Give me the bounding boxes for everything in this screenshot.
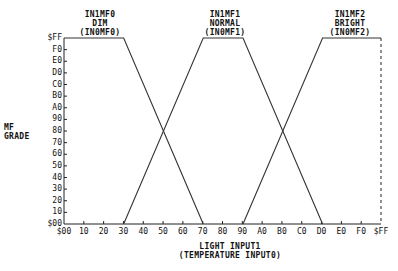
mf0-desc: DIM	[60, 19, 140, 28]
x-tick-label: 80	[215, 228, 231, 236]
mf-curve-1	[124, 38, 323, 224]
y-tick-label: 50	[52, 162, 62, 170]
y-tick-label: 10	[52, 208, 62, 216]
mf2-alt: (IN0MF2)	[310, 28, 390, 37]
y-axis-label-line2: GRADE	[4, 132, 30, 141]
y-tick-label: 40	[52, 174, 62, 182]
mf-curve-0	[64, 38, 203, 224]
x-tick-label: D0	[314, 228, 330, 236]
x-tick-label: 60	[175, 228, 191, 236]
x-tick-label: 40	[135, 228, 151, 236]
y-tick-label: E0	[52, 57, 62, 65]
x-tick-label: 20	[96, 228, 112, 236]
y-tick-label: B0	[52, 92, 62, 100]
y-tick-label: 70	[52, 139, 62, 147]
y-tick-label: F0	[52, 46, 62, 54]
y-tick-label: D0	[52, 69, 62, 77]
y-axis-label: MF GRADE	[4, 123, 30, 141]
x-axis-label-main: LIGHT INPUT1	[140, 242, 320, 251]
x-tick-label: 50	[155, 228, 171, 236]
x-tick-label: A0	[254, 228, 270, 236]
mf2-desc: BRIGHT	[310, 19, 390, 28]
mf-curve-2	[243, 38, 381, 224]
x-tick-label: 70	[195, 228, 211, 236]
mf2-name: IN1MF2	[310, 10, 390, 19]
y-tick-label: A0	[52, 104, 62, 112]
mf1-desc: NORMAL	[185, 19, 265, 28]
x-tick-label: E0	[333, 228, 349, 236]
mf1-name: IN1MF1	[185, 10, 265, 19]
mf0-alt: (IN0MF0)	[60, 28, 140, 37]
y-tick-label: 80	[52, 127, 62, 135]
y-tick-label: C0	[52, 81, 62, 89]
mf0-label: IN1MF0 DIM (IN0MF0)	[60, 10, 140, 37]
mf1-alt: (IN0MF1)	[185, 28, 265, 37]
y-axis-label-line1: MF	[4, 123, 30, 132]
x-tick-label: 30	[115, 228, 131, 236]
y-tick-label: 30	[52, 185, 62, 193]
y-tick-label: 60	[52, 150, 62, 158]
x-tick-label: C0	[294, 228, 310, 236]
y-tick-label: $FF	[48, 34, 62, 42]
x-tick-label: 10	[76, 228, 92, 236]
y-tick-label: 20	[52, 197, 62, 205]
y-tick-label: 90	[52, 115, 62, 123]
mf1-label: IN1MF1 NORMAL (IN0MF1)	[185, 10, 265, 37]
mf0-name: IN1MF0	[60, 10, 140, 19]
x-tick-label: $00	[56, 228, 72, 236]
x-axis-label-sub: (TEMPERATURE INPUT0)	[140, 251, 320, 260]
x-axis-label: LIGHT INPUT1 (TEMPERATURE INPUT0)	[140, 242, 320, 260]
mf2-label: IN1MF2 BRIGHT (IN0MF2)	[310, 10, 390, 37]
x-tick-label: $FF	[373, 228, 389, 236]
x-tick-label: F0	[353, 228, 369, 236]
x-tick-label: 90	[234, 228, 250, 236]
x-tick-label: B0	[274, 228, 290, 236]
